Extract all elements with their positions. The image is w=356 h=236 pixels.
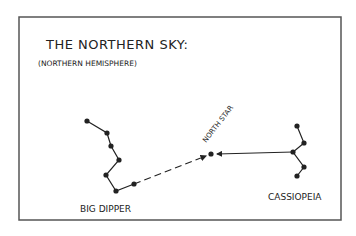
diagram-subtitle: (NORTHERN HEMISPHERE) bbox=[38, 59, 137, 68]
star bbox=[301, 140, 306, 145]
cassiopeia-constellation bbox=[290, 123, 306, 178]
star bbox=[84, 118, 89, 123]
big-dipper-constellation bbox=[84, 118, 136, 193]
cassiopeia-to-north-star-arrow bbox=[217, 152, 293, 154]
star bbox=[294, 123, 299, 128]
big-dipper-label: BIG DIPPER bbox=[80, 204, 131, 214]
star bbox=[294, 173, 299, 178]
star bbox=[116, 157, 121, 162]
star bbox=[301, 164, 306, 169]
north-star bbox=[208, 151, 213, 156]
northern-sky-diagram: THE NORTHERN SKY: (NORTHERN HEMISPHERE) … bbox=[0, 0, 356, 236]
north-star-label: NORTH STAR bbox=[201, 104, 235, 144]
star bbox=[108, 143, 113, 148]
cassiopeia-label: CASSIOPEIA bbox=[268, 192, 322, 202]
star bbox=[113, 188, 118, 193]
dipper-to-north-star-arrow bbox=[134, 156, 206, 184]
star bbox=[104, 130, 109, 135]
diagram-title: THE NORTHERN SKY: bbox=[45, 37, 188, 52]
star bbox=[103, 172, 108, 177]
